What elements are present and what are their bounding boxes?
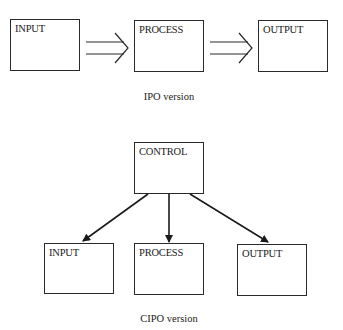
cipo-input-box: INPUT xyxy=(44,243,114,294)
cipo-caption: CIPO version xyxy=(109,313,229,324)
ipo-caption: IPO version xyxy=(109,91,229,102)
cipo-output-label: OUTPUT xyxy=(242,248,282,259)
cipo-output-box: OUTPUT xyxy=(237,244,307,296)
cipo-process-box: PROCESS xyxy=(134,243,204,295)
ipo-process-box: PROCESS xyxy=(134,20,204,72)
cipo-control-box: CONTROL xyxy=(134,142,204,194)
cipo-input-label: INPUT xyxy=(49,247,79,258)
ipo-arrow-input-to-process xyxy=(86,33,128,63)
cipo-process-label: PROCESS xyxy=(139,247,183,258)
ipo-output-label: OUTPUT xyxy=(263,24,303,35)
ipo-arrow-process-to-output xyxy=(210,33,252,63)
ipo-process-label: PROCESS xyxy=(139,24,183,35)
ipo-input-box: INPUT xyxy=(10,19,80,71)
ipo-input-label: INPUT xyxy=(15,23,45,34)
cipo-arrow-control-to-output xyxy=(190,194,268,242)
cipo-arrow-control-to-input xyxy=(83,194,148,241)
cipo-control-label: CONTROL xyxy=(139,146,187,157)
ipo-output-box: OUTPUT xyxy=(258,20,328,72)
